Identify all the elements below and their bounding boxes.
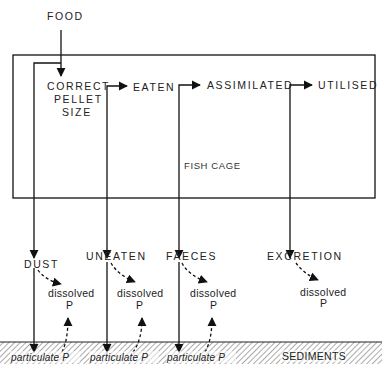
dissolve-arrow-faeces [182,263,207,282]
svg-text:P: P [320,297,327,309]
dissolved-p-dust: dissolved P [48,287,94,311]
stage-utilised: UTILISED [318,79,378,91]
stage-assimilated: ASSIMILATED [207,79,293,91]
fish-cage-box [13,55,375,198]
arrow-to-utilised [290,85,312,128]
svg-text:dissolved: dissolved [117,287,163,299]
dissolved-p-excretion: dissolved P [300,286,346,309]
particulate-p-faeces: particulate P [166,352,225,363]
dissolved-p-uneaten: dissolved P [117,287,163,311]
dissolve-arrow-dust [38,270,61,284]
arrow-to-assimilated [179,85,200,128]
particulate-p-dust: particulate P [10,352,69,363]
particulate-p-uneaten: particulate P [89,352,148,363]
loss-excretion-label: EXCRETION [267,250,343,262]
food-label: FOOD [47,10,84,22]
svg-text:CORRECT: CORRECT [47,80,110,92]
fish-cage-label: FISH CAGE [184,160,241,171]
svg-text:PELLET: PELLET [54,93,103,105]
svg-text:P: P [66,299,73,311]
phosphorus-flow-diagram: FOOD FISH CAGE CORRECT PELLET SIZE EATEN… [0,0,388,378]
svg-text:dissolved: dissolved [190,287,236,299]
loss-dust-label: DUST [24,258,59,270]
sediments-label: SEDIMENTS [282,350,346,362]
dissolved-p-faeces: dissolved P [190,287,236,311]
loss-uneaten-label: UNEATEN [86,250,147,262]
arrow-to-eaten [107,86,127,128]
dissolve-arrow-excretion [296,263,318,280]
loss-faeces-label: FAECES [166,250,217,262]
stage-correct-pellet-size: CORRECT PELLET SIZE [47,80,110,118]
stage-eaten: EATEN [133,81,175,93]
svg-text:SIZE: SIZE [62,106,92,118]
dissolve-arrow-uneaten [111,263,135,282]
svg-text:dissolved: dissolved [48,287,94,299]
svg-text:P: P [136,299,143,311]
svg-text:P: P [210,299,217,311]
